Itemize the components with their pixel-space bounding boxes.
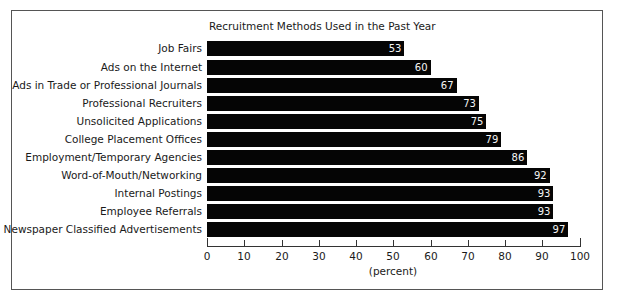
bar: 93 — [207, 204, 553, 219]
bar: 92 — [207, 168, 550, 183]
bar: 53 — [207, 41, 404, 56]
x-axis-tick — [244, 240, 245, 246]
x-axis-tick-label: 50 — [386, 250, 399, 262]
bar-value-label: 93 — [538, 205, 551, 218]
bar: 79 — [207, 132, 501, 147]
x-axis-tick — [207, 238, 208, 247]
bar-value-label: 93 — [538, 187, 551, 200]
bar-value-label: 75 — [471, 115, 484, 128]
x-axis-tick — [282, 240, 283, 246]
bar-value-label: 67 — [441, 79, 454, 92]
category-label: Employment/Temporary Agencies — [25, 150, 202, 164]
x-axis-tick — [542, 240, 543, 246]
x-axis-tick-label: 60 — [424, 250, 437, 262]
x-axis-tick — [356, 240, 357, 246]
bar: 93 — [207, 186, 553, 201]
bar-value-label: 92 — [534, 169, 547, 182]
bar-value-label: 73 — [463, 97, 476, 110]
x-axis-tick — [393, 240, 394, 246]
x-axis-tick-label: 80 — [498, 250, 511, 262]
x-axis-label: (percent) — [369, 265, 417, 277]
bar-value-label: 79 — [486, 133, 499, 146]
x-axis-tick — [580, 238, 581, 247]
x-axis-tick-label: 20 — [275, 250, 288, 262]
bar: 73 — [207, 96, 479, 111]
bar-value-label: 86 — [512, 151, 525, 164]
x-axis-tick — [431, 240, 432, 246]
category-label: Ads on the Internet — [101, 60, 202, 74]
category-label: Unsolicited Applications — [77, 114, 202, 128]
category-label: Internal Postings — [115, 186, 202, 200]
bar: 97 — [207, 222, 568, 237]
bar: 75 — [207, 114, 486, 129]
category-label: Job Fairs — [158, 41, 202, 55]
x-axis-tick — [319, 240, 320, 246]
x-axis-line — [207, 246, 580, 247]
category-label: Ads in Trade or Professional Journals — [12, 78, 202, 92]
x-axis-tick — [505, 240, 506, 246]
bar: 67 — [207, 78, 457, 93]
category-label: Employee Referrals — [100, 204, 202, 218]
bar-value-label: 97 — [553, 223, 566, 236]
bar: 86 — [207, 150, 527, 165]
x-axis-tick-label: 30 — [312, 250, 325, 262]
x-axis-tick-label: 10 — [237, 250, 250, 262]
x-axis-tick-label: 40 — [349, 250, 362, 262]
category-label: Newspaper Classified Advertisements — [4, 222, 202, 236]
bar-value-label: 60 — [415, 61, 428, 74]
category-label: College Placement Offices — [65, 132, 202, 146]
bar: 60 — [207, 60, 431, 75]
x-axis-tick-label: 100 — [570, 250, 590, 262]
category-label: Word-of-Mouth/Networking — [61, 168, 202, 182]
x-axis-tick — [468, 240, 469, 246]
chart-title: Recruitment Methods Used in the Past Yea… — [209, 20, 436, 32]
x-axis-tick-label: 90 — [535, 250, 548, 262]
bar-value-label: 53 — [389, 42, 402, 55]
x-axis-tick-label: 0 — [204, 250, 211, 262]
x-axis-tick-label: 70 — [461, 250, 474, 262]
category-label: Professional Recruiters — [82, 96, 202, 110]
